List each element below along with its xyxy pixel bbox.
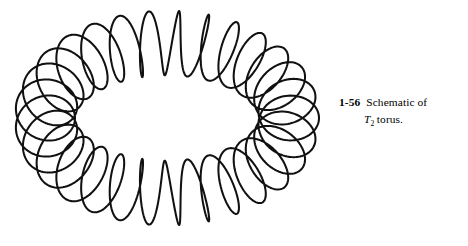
symbol-subscript-2: 2: [370, 119, 374, 128]
caption-trailing-text: torus.: [377, 113, 403, 125]
caption-line-one: 1-56Schematic of: [339, 94, 459, 111]
caption-line-two: T2torus.: [339, 111, 459, 132]
figure-caption: 1-56Schematic of T2torus.: [339, 94, 459, 132]
toroidal-coil-path: [16, 11, 319, 225]
caption-text: Schematic of: [366, 96, 427, 108]
figure-panel: [0, 0, 330, 246]
torus-figure: [0, 0, 330, 246]
caption-number: 1-56: [339, 96, 360, 108]
